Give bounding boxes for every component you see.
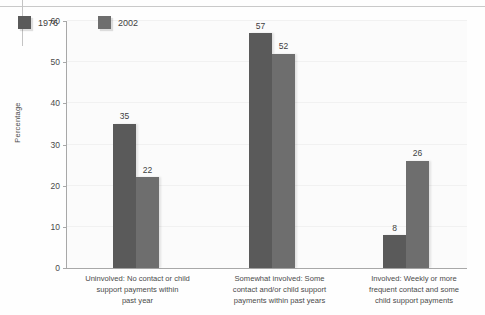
legend-item-2002[interactable]: 2002 bbox=[98, 16, 138, 29]
bar-rect bbox=[383, 235, 406, 268]
bar-2002[interactable]: 52 bbox=[272, 54, 295, 268]
top-divider-rule bbox=[0, 6, 485, 7]
bar-1976[interactable]: 8 bbox=[383, 235, 406, 268]
legend-label-1976: 1976 bbox=[38, 18, 58, 28]
chart-legend: 1976 2002 bbox=[18, 16, 138, 29]
x-axis-category-label: Involved: Weekly or morefrequent contact… bbox=[343, 274, 485, 306]
bar-value-label: 26 bbox=[395, 149, 440, 158]
y-tick-mark bbox=[63, 186, 66, 187]
legend-swatch-1976 bbox=[18, 16, 31, 29]
category-label-line: Somewhat involved: Some bbox=[198, 274, 361, 285]
bar-rect bbox=[406, 161, 429, 268]
legend-swatch-2002 bbox=[98, 16, 111, 29]
y-tick-label: 30 bbox=[36, 141, 60, 150]
y-axis-title: Percentage bbox=[13, 73, 22, 173]
y-tick-label: 20 bbox=[36, 182, 60, 191]
y-tick-mark bbox=[63, 103, 66, 104]
bar-value-label: 57 bbox=[238, 22, 283, 31]
bar-value-label: 35 bbox=[102, 112, 147, 121]
bar-2002[interactable]: 22 bbox=[136, 177, 159, 268]
category-label-line: payments within past years bbox=[198, 296, 361, 307]
y-tick-mark bbox=[63, 227, 66, 228]
category-label-line: frequent contact and some bbox=[343, 285, 485, 296]
y-tick-mark bbox=[63, 145, 66, 146]
y-tick-label: 40 bbox=[36, 99, 60, 108]
bar-rect bbox=[272, 54, 295, 268]
y-tick-label: 50 bbox=[36, 58, 60, 67]
category-label-line: contact and/or child support bbox=[198, 285, 361, 296]
category-label-line: Involved: Weekly or more bbox=[343, 274, 485, 285]
y-tick-mark bbox=[63, 62, 66, 63]
plot-area: 35225752826 bbox=[66, 21, 467, 269]
bar-group: 5752 bbox=[249, 33, 295, 268]
bar-group: 826 bbox=[383, 161, 429, 268]
bar-1976[interactable]: 35 bbox=[113, 124, 136, 268]
bar-1976[interactable]: 57 bbox=[249, 33, 272, 268]
x-axis-category-label: Somewhat involved: Somecontact and/or ch… bbox=[198, 274, 361, 306]
bar-2002[interactable]: 26 bbox=[406, 161, 429, 268]
bar-rect bbox=[113, 124, 136, 268]
chart-figure: Percentage 35225752826 0102030405060 197… bbox=[0, 0, 485, 315]
bar-rect bbox=[249, 33, 272, 268]
y-tick-label: 0 bbox=[36, 264, 60, 273]
bar-rect bbox=[136, 177, 159, 268]
bar-value-label: 22 bbox=[125, 166, 170, 175]
bar-group: 3522 bbox=[113, 124, 159, 268]
y-tick-mark bbox=[63, 268, 66, 269]
y-tick-label: 10 bbox=[36, 223, 60, 232]
bar-value-label: 52 bbox=[261, 42, 306, 51]
legend-item-1976[interactable]: 1976 bbox=[18, 16, 58, 29]
category-label-line: child support payments bbox=[343, 296, 485, 307]
legend-label-2002: 2002 bbox=[118, 18, 138, 28]
